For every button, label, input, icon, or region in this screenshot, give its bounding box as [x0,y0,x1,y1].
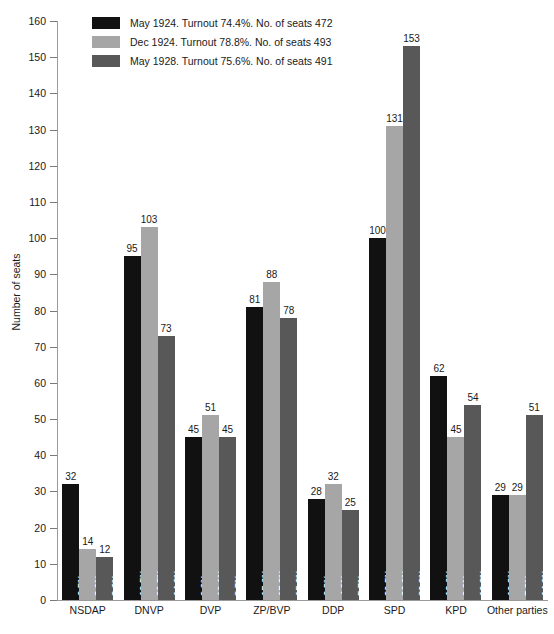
y-tick-label: 100 [12,233,46,244]
legend-item[interactable]: May 1924. Turnout 74.4%. No. of seats 47… [92,14,352,33]
bar-group: 2910.3%297.8%5114.0% [492,21,543,600]
chart-legend: May 1924. Turnout 74.4%. No. of seats 47… [92,14,352,71]
y-tick-mark [50,238,57,239]
bar-zp-bvp-may-1924[interactable]: 8115.6% [246,307,263,600]
legend-item[interactable]: May 1928. Turnout 75.6%. No. of seats 49… [92,52,352,71]
bar-value-label: 25 [335,498,366,508]
y-tick-label: 20 [12,523,46,534]
bar-kpd-may-1924[interactable]: 6212.6% [430,376,447,600]
y-tick-mark [50,202,57,203]
bar-value-label: 32 [318,472,349,482]
y-tick-mark [50,491,57,492]
bar-group: 286.3%324.9%255.7% [308,21,359,600]
y-tick-mark [50,455,57,456]
bar-dvp-may-1924[interactable]: 459.2% [185,437,202,600]
bar-ddp-may-1928[interactable]: 255.7% [342,510,359,600]
bar-value-label: 103 [134,215,165,225]
x-axis-category-label: Other parties [462,604,554,616]
bar-spd-may-1924[interactable]: 10020.5% [369,238,386,600]
legend-item[interactable]: Dec 1924. Turnout 78.8%. No. of seats 49… [92,33,352,52]
y-tick-mark [50,130,57,131]
bar-dvp-dec-1924[interactable]: 5110.1% [202,415,219,600]
bar-value-label: 153 [396,34,427,44]
y-tick-mark [50,419,57,420]
bar-spd-dec-1924[interactable]: 13126.0% [386,126,403,600]
bar-other-parties-dec-1924[interactable]: 297.8% [509,495,526,600]
legend-label: Dec 1924. Turnout 78.8%. No. of seats 49… [130,35,331,49]
y-tick-mark [50,274,57,275]
bar-percent-label: 5.7% [355,514,366,596]
y-tick-mark [50,57,57,58]
y-tick-label: 80 [12,306,46,317]
y-tick-mark [50,564,57,565]
bar-value-label: 51 [195,403,226,413]
y-tick-label: 90 [12,269,46,280]
bar-dnvp-may-1924[interactable]: 9519.5% [124,256,141,600]
bar-nsdap-dec-1924[interactable]: 143.0% [79,549,96,600]
bar-group: 10020.5%13126.0%15329.8% [369,21,420,600]
y-tick-mark [50,166,57,167]
y-tick-mark [50,347,57,348]
bar-value-label: 73 [151,324,182,334]
bar-zp-bvp-dec-1924[interactable]: 8817.3% [263,282,280,600]
bar-dnvp-dec-1924[interactable]: 10320.5% [141,227,158,600]
y-tick-mark [50,21,57,22]
bar-group: 459.2%5110.1%458.7% [185,21,236,600]
y-tick-mark [50,383,57,384]
x-axis-line [57,600,548,601]
bar-group: 8115.6%8817.3%7815.2% [246,21,297,600]
bar-value-label: 62 [423,364,454,374]
legend-color-swatch [92,36,120,48]
bar-percent-label: 14.0% [539,419,550,596]
bar-kpd-may-1928[interactable]: 5410.8% [464,405,481,600]
legend-color-swatch [92,17,120,29]
y-tick-label: 10 [12,559,46,570]
y-axis-line [57,21,58,601]
bar-dnvp-may-1928[interactable]: 7314.2% [158,336,175,600]
bar-group: 326.5%143.0%122.6% [62,21,113,600]
y-tick-label: 160 [12,16,46,27]
y-tick-label: 150 [12,52,46,63]
legend-color-swatch [92,55,120,67]
bar-kpd-dec-1924[interactable]: 459.0% [447,437,464,600]
bar-group: 6212.6%459.0%5410.8% [430,21,481,600]
bar-percent-label: 15.2% [293,322,304,596]
bar-value-label: 54 [457,393,488,403]
y-tick-label: 30 [12,486,46,497]
bar-spd-may-1928[interactable]: 15329.8% [403,46,420,600]
bar-value-label: 45 [212,425,243,435]
bar-percent-label: 10.8% [477,409,488,596]
bar-value-label: 78 [273,306,304,316]
bar-zp-bvp-may-1928[interactable]: 7815.2% [280,318,297,600]
y-tick-label: 60 [12,378,46,389]
y-tick-label: 50 [12,414,46,425]
legend-label: May 1924. Turnout 74.4%. No. of seats 47… [130,16,333,30]
bar-other-parties-may-1928[interactable]: 5114.0% [526,415,543,600]
bar-percent-label: 29.8% [416,50,427,596]
y-tick-label: 120 [12,161,46,172]
bar-other-parties-may-1924[interactable]: 2910.3% [492,495,509,600]
bar-value-label: 88 [256,270,287,280]
y-axis-title: Number of seats [10,232,22,352]
y-tick-label: 140 [12,88,46,99]
y-tick-label: 130 [12,125,46,136]
bar-value-label: 12 [89,545,120,555]
y-tick-label: 70 [12,342,46,353]
bar-percent-label: 2.6% [109,561,120,596]
legend-label: May 1928. Turnout 75.6%. No. of seats 49… [130,54,333,68]
bar-dvp-may-1928[interactable]: 458.7% [219,437,236,600]
y-tick-mark [50,311,57,312]
bar-group: 9519.5%10320.5%7314.2% [124,21,175,600]
bar-value-label: 32 [55,472,86,482]
y-tick-mark [50,528,57,529]
bar-percent-label: 8.7% [232,441,243,596]
bar-nsdap-may-1928[interactable]: 122.6% [96,557,113,600]
bar-value-label: 51 [519,403,550,413]
bar-ddp-may-1924[interactable]: 286.3% [308,499,325,600]
y-tick-mark [50,600,57,601]
y-tick-mark [50,93,57,94]
y-tick-label: 40 [12,450,46,461]
bar-percent-label: 14.2% [171,340,182,596]
bar-chart: Number of seats 010203040506070809010011… [0,0,554,634]
y-tick-label: 110 [12,197,46,208]
